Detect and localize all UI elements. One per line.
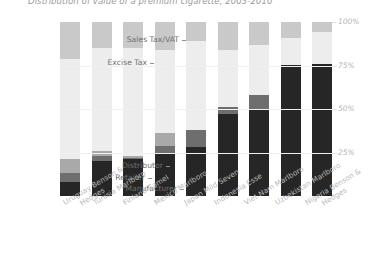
y-tick-mark-50 — [332, 109, 337, 110]
bar-segment-sales-tax[interactable] — [92, 22, 112, 48]
bar-segment-retailer[interactable] — [186, 130, 206, 147]
legend-leader-line-retailer — [148, 178, 152, 179]
y-tick-mark-100 — [332, 22, 337, 23]
bar-segment-sales-tax[interactable] — [249, 22, 269, 45]
chart-title: Distribution of value of a premium cigar… — [28, 0, 273, 6]
legend-leader-line-sales-tax — [182, 40, 186, 41]
chart-root: Distribution of value of a premium cigar… — [0, 0, 371, 275]
gridline-25 — [60, 153, 332, 154]
bar-segment-distributor[interactable] — [60, 159, 80, 173]
bar-segment-retailer[interactable] — [249, 95, 269, 109]
bar-segment-sales-tax[interactable] — [312, 22, 332, 32]
y-axis-tick-label: 75% — [338, 61, 355, 70]
legend-label-sales-tax: Sales Tax/VAT — [127, 35, 179, 44]
bar-segment-excise-tax[interactable] — [218, 50, 238, 107]
y-tick-mark-75 — [332, 66, 337, 67]
bar-segment-sales-tax[interactable] — [60, 22, 80, 59]
bar-segment-retailer[interactable] — [60, 173, 80, 182]
y-axis-tick-label: 100% — [338, 17, 359, 26]
x-axis-label-layer: Uruguay Benson &HedgesTunisia MarlboroFi… — [0, 196, 371, 275]
bar-segment-excise-tax[interactable] — [155, 50, 175, 134]
y-tick-mark-25 — [332, 153, 337, 154]
bar-segment-sales-tax[interactable] — [281, 22, 301, 38]
bar-segment-excise-tax[interactable] — [249, 45, 269, 95]
bar-segment-sales-tax[interactable] — [186, 22, 206, 41]
bar-segment-excise-tax[interactable] — [281, 38, 301, 66]
legend-leader-line-distributor — [166, 166, 170, 167]
bar-segment-distributor[interactable] — [155, 133, 175, 145]
bar-segment-excise-tax[interactable] — [312, 32, 332, 63]
y-axis-tick-label: 50% — [338, 104, 355, 113]
legend-label-excise-tax: Excise Tax — [107, 58, 147, 67]
legend-leader-line-excise-tax — [150, 63, 154, 64]
gridline-50 — [60, 109, 332, 110]
y-axis-tick-label: 25% — [338, 148, 355, 157]
gridline-75 — [60, 66, 332, 67]
bar-segment-sales-tax[interactable] — [218, 22, 238, 50]
bar-segment-excise-tax[interactable] — [186, 41, 206, 130]
